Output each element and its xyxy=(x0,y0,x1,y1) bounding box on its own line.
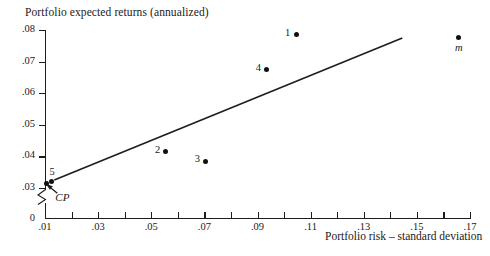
y-axis-tick-label: .08 xyxy=(11,23,35,34)
x-axis-tick xyxy=(45,212,46,219)
x-axis-minor-tick xyxy=(125,212,126,219)
x-axis-tick xyxy=(258,212,259,219)
y-axis-tick-label: .05 xyxy=(11,118,35,129)
y-axis-tick-label: .06 xyxy=(11,86,35,97)
data-point-label: 3 xyxy=(195,153,200,164)
x-axis-caption: Portfolio risk – standard deviation xyxy=(325,230,482,242)
y-axis-tick xyxy=(39,188,46,189)
x-axis-tick xyxy=(417,212,418,219)
y-axis-tick-label: .03 xyxy=(11,181,35,192)
x-axis-tick-label: .11 xyxy=(298,221,324,232)
x-axis-tick xyxy=(204,212,205,219)
x-axis-tick xyxy=(311,212,312,219)
x-axis-tick xyxy=(151,212,152,219)
scatter-chart: Portfolio expected returns (annualized) … xyxy=(0,0,490,256)
data-point-label: 2 xyxy=(155,144,160,155)
x-axis-minor-tick xyxy=(390,212,391,219)
x-axis-tick-label: .01 xyxy=(32,221,58,232)
x-axis-tick-label: .03 xyxy=(85,221,111,232)
x-axis-tick-label: .09 xyxy=(245,221,271,232)
data-point xyxy=(163,149,168,154)
chart-title: Portfolio expected returns (annualized) xyxy=(25,6,209,18)
data-point-label: m xyxy=(455,42,463,53)
y-axis-tick xyxy=(39,156,46,157)
data-point xyxy=(203,159,208,164)
data-point xyxy=(456,35,461,40)
y-axis-break-icon xyxy=(34,188,52,206)
x-axis-minor-tick xyxy=(443,212,444,219)
data-point-label: 5 xyxy=(50,166,55,177)
y-axis-line-upper xyxy=(45,30,46,190)
x-axis-minor-tick xyxy=(231,212,232,219)
x-axis-minor-tick xyxy=(284,212,285,219)
x-axis-tick-label: .07 xyxy=(191,221,217,232)
y-axis-tick xyxy=(39,30,46,31)
y-axis-tick xyxy=(39,125,46,126)
y-axis-tick xyxy=(39,93,46,94)
y-axis-tick-label: .04 xyxy=(11,149,35,160)
cp-annotation-label: CP xyxy=(55,191,69,203)
x-axis-tick xyxy=(98,212,99,219)
x-axis-tick xyxy=(470,212,471,219)
data-point-label: 4 xyxy=(256,62,261,73)
x-axis-minor-tick xyxy=(72,212,73,219)
data-point xyxy=(264,67,269,72)
x-axis-minor-tick xyxy=(178,212,179,219)
x-axis-tick xyxy=(364,212,365,219)
y-axis-tick-label: .07 xyxy=(11,55,35,66)
data-point xyxy=(294,32,299,37)
x-axis-minor-tick xyxy=(337,212,338,219)
y-axis-tick xyxy=(39,62,46,63)
data-point xyxy=(44,181,49,186)
data-point xyxy=(49,179,54,184)
data-point-label: 1 xyxy=(285,27,290,38)
x-axis-tick-label: .05 xyxy=(138,221,164,232)
